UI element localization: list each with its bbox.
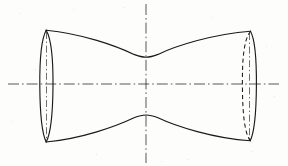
upper-hyperbolic-silhouette [46,30,250,57]
hyperboloid-drawing-svg [0,0,288,166]
left-ellipse-outer-arc [40,30,46,142]
technical-drawing-figure: Hyperboloid of one sheet [0,0,288,166]
lower-hyperbolic-silhouette [46,115,250,142]
body-silhouette-group [46,30,250,142]
right-ellipse-visible-arc [250,31,256,141]
left-ellipse-inner-arc [46,30,53,142]
